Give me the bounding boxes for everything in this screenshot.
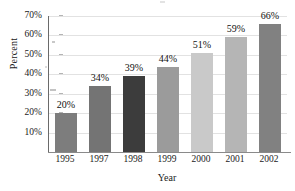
x-tick-label: 1995 [48, 155, 82, 165]
y-axis-ticks: 10%20%30%40%50%60%70% [14, 0, 42, 191]
x-tick-label: 1999 [150, 155, 184, 165]
bar-value-label: 20% [57, 100, 75, 110]
bar-value-label: 66% [261, 11, 279, 21]
scan-artifact-top [160, 1, 165, 3]
bar-series: 20%34%39%44%51%59%66% [49, 16, 287, 152]
bar-value-label: 51% [193, 40, 211, 50]
y-tick-label: 60% [14, 31, 42, 41]
bar-group: 39% [123, 16, 144, 152]
bar-chart-figure: Percent 10%20%30%40%50%60%70% 20%34%39%4… [0, 0, 295, 191]
bar-group: 34% [89, 16, 110, 152]
y-tick-label: 50% [14, 50, 42, 60]
bar-group: 51% [191, 16, 212, 152]
y-tick-label: 30% [14, 89, 42, 99]
scan-artifact-dash [50, 89, 56, 91]
bar-group: 20% [55, 16, 76, 152]
bar-value-label: 44% [159, 54, 177, 64]
y-tick-label: 10% [14, 128, 42, 138]
scan-artifact-dot [52, 41, 55, 43]
bar[interactable] [157, 67, 178, 152]
bar[interactable] [123, 76, 144, 152]
bar-value-label: 34% [91, 73, 109, 83]
y-tick-label: 40% [14, 70, 42, 80]
y-tick-label: 20% [14, 108, 42, 118]
x-tick-label: 2002 [252, 155, 286, 165]
bar[interactable] [225, 37, 246, 152]
bar-value-label: 59% [227, 24, 245, 34]
x-axis-title: Year [48, 172, 286, 183]
x-tick-label: 2001 [218, 155, 252, 165]
x-tick-label: 2000 [184, 155, 218, 165]
bar-value-label: 39% [125, 63, 143, 73]
bar-group: 44% [157, 16, 178, 152]
bar[interactable] [191, 53, 212, 152]
x-tick-label: 1997 [82, 155, 116, 165]
y-tick-label: 70% [14, 11, 42, 21]
bar-group: 59% [225, 16, 246, 152]
bar[interactable] [259, 24, 280, 152]
bar[interactable] [55, 113, 76, 152]
scan-artifact-speck [45, 66, 47, 68]
plot-area: 20%34%39%44%51%59%66% [48, 16, 287, 152]
bar-group: 66% [259, 16, 280, 152]
x-axis-line [48, 152, 291, 153]
bar[interactable] [89, 86, 110, 152]
x-axis-ticks: 1995199719981999200020012002 [48, 155, 286, 169]
x-tick-label: 1998 [116, 155, 150, 165]
